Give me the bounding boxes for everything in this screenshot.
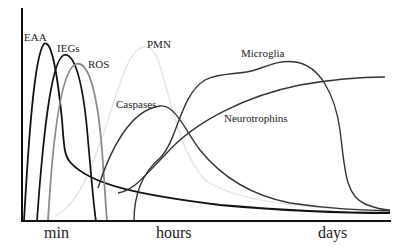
label-caspases: Caspases xyxy=(116,98,156,110)
label-microglia: Microglia xyxy=(241,47,284,59)
neurotrophins-curve xyxy=(118,77,385,193)
label-neurotrophins: Neurotrophins xyxy=(224,112,288,124)
chart-canvas: EAA IEGs ROS PMN Caspases Microglia Neur… xyxy=(0,0,411,249)
x-label-min: min xyxy=(44,224,69,241)
label-ros: ROS xyxy=(88,58,109,70)
x-label-days: days xyxy=(318,224,347,242)
label-iegs: IEGs xyxy=(57,42,80,54)
label-eaa: EAA xyxy=(24,31,47,43)
ros-curve xyxy=(48,64,107,221)
microglia-curve xyxy=(134,62,390,221)
x-label-hours: hours xyxy=(156,224,192,241)
label-pmn: PMN xyxy=(147,38,171,50)
eaa-curve xyxy=(24,43,390,221)
